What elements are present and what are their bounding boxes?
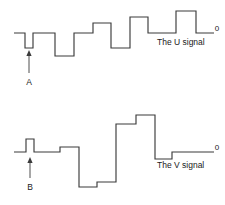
u-signal-group: A 0 The U signal [14,11,220,87]
v-signal-marker-arrow [27,157,32,178]
u-signal-marker-arrow [26,50,31,73]
u-signal-trace [14,11,214,56]
u-signal-marker-label: A [26,77,32,87]
u-signal-zero-label: 0 [215,24,220,33]
v-signal-zero-label: 0 [215,143,220,152]
v-signal-group: B 0 The V signal [14,115,220,192]
v-signal-marker-label: B [27,182,33,192]
u-signal-caption: The U signal [157,37,205,47]
signal-waveform-figure: A 0 The U signal B 0 The V signal [0,0,225,205]
waveform-canvas: A 0 The U signal B 0 The V signal [0,0,225,205]
v-signal-trace [14,115,214,187]
v-signal-caption: The V signal [157,160,204,170]
